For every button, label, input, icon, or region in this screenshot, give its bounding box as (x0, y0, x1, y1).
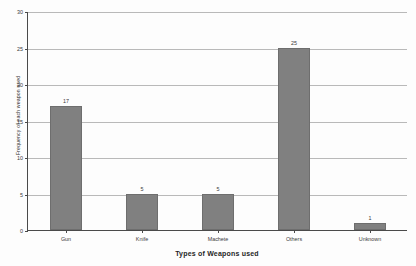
y-axis-tick-label: 15 (17, 119, 23, 125)
bar-group: 17 (50, 12, 82, 230)
bar-gun[interactable] (50, 106, 82, 230)
bar-group: 25 (278, 12, 310, 230)
x-axis-tick-mark (218, 230, 219, 233)
y-axis-tick-label: 20 (17, 82, 23, 88)
bar-unknown[interactable] (354, 223, 386, 230)
x-axis-tick-mark (142, 230, 143, 233)
x-axis-title: Types of Weapons used (27, 250, 407, 257)
x-axis-tick-mark (370, 230, 371, 233)
bar-knife[interactable] (126, 194, 158, 231)
bar-chart-figure: Frequency of each weapon used 0510152025… (0, 0, 416, 266)
y-axis-tick-mark (25, 12, 28, 13)
y-axis-tick-mark (25, 49, 28, 50)
y-axis-tick-label: 0 (20, 228, 23, 234)
bar-others[interactable] (278, 48, 310, 231)
bar-group: 1 (354, 12, 386, 230)
y-axis-tick-mark (25, 122, 28, 123)
y-axis-tick-mark (25, 231, 28, 232)
y-axis-tick-mark (25, 85, 28, 86)
bar-value-label: 17 (63, 98, 69, 104)
bar-machete[interactable] (202, 194, 234, 231)
bar-value-label: 25 (291, 40, 297, 46)
bar-group: 5 (202, 12, 234, 230)
bar-value-label: 1 (369, 215, 372, 221)
y-axis-tick-label: 25 (17, 46, 23, 52)
bar-value-label: 5 (217, 186, 220, 192)
x-axis-tick-label-gun: Gun (61, 236, 71, 242)
y-axis-tick-label: 5 (20, 192, 23, 198)
x-axis-tick-mark (294, 230, 295, 233)
y-axis-tick-label: 30 (17, 9, 23, 15)
plot-area: 05101520253017Gun5Knife5Machete25Others1… (27, 12, 407, 231)
x-axis-tick-mark (66, 230, 67, 233)
x-axis-tick-label-machete: Machete (208, 236, 229, 242)
y-axis-tick-mark (25, 158, 28, 159)
bar-value-label: 5 (141, 186, 144, 192)
x-axis-tick-label-unknown: Unknown (359, 236, 381, 242)
y-axis-tick-label: 10 (17, 155, 23, 161)
bar-group: 5 (126, 12, 158, 230)
x-axis-tick-label-knife: Knife (136, 236, 148, 242)
y-axis-tick-mark (25, 195, 28, 196)
x-axis-tick-label-others: Others (286, 236, 302, 242)
